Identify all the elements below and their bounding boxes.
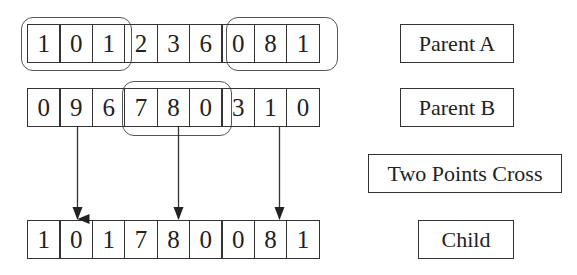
child-label: Child: [418, 220, 514, 259]
parent-a-label: Parent A: [400, 24, 514, 63]
arrow-down-icon: [78, 127, 280, 219]
two-points-cross-label: Two Points Cross: [368, 154, 562, 193]
parent-b-label: Parent B: [400, 88, 514, 127]
